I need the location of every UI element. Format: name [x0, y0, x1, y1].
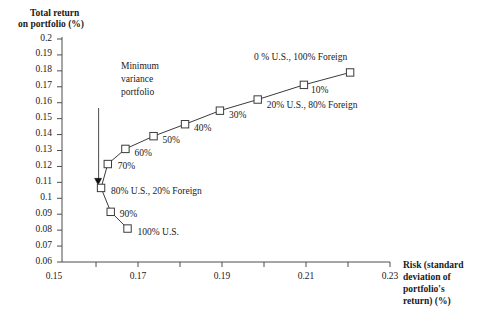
y-tick-label: 0.08: [20, 224, 52, 234]
data-point-label: 0 % U.S., 100% Foreign: [254, 52, 347, 62]
data-point-marker[interactable]: [124, 225, 131, 232]
data-point-label: 80% U.S., 20% Foreign: [111, 186, 202, 196]
data-point-label: 90%: [120, 209, 137, 219]
data-point-marker[interactable]: [150, 132, 157, 139]
y-tick-label: 0.17: [20, 80, 52, 90]
data-point-marker[interactable]: [122, 145, 129, 152]
data-point-marker[interactable]: [254, 96, 261, 103]
y-tick-label: 0.14: [20, 128, 52, 138]
y-tick-label: 0.13: [20, 144, 52, 154]
data-point-marker[interactable]: [216, 107, 223, 114]
data-point-label: 40%: [194, 123, 211, 133]
plot-area: [0, 0, 491, 325]
x-axis-ticks: [96, 262, 390, 267]
data-point-marker[interactable]: [300, 81, 307, 88]
x-tick-label: 0.17: [125, 271, 151, 281]
data-point-label: 60%: [134, 148, 151, 158]
x-tick-label: 0.21: [293, 271, 319, 281]
y-tick-label: 0.16: [20, 96, 52, 106]
y-tick-label: 0.12: [20, 160, 52, 170]
data-point-label: 100% U.S.: [138, 227, 179, 237]
data-point-marker[interactable]: [107, 208, 114, 215]
y-tick-label: 0.07: [20, 240, 52, 250]
y-tick-label: 0.11: [20, 176, 52, 186]
y-tick-label: 0.15: [20, 112, 52, 122]
data-point-label: 50%: [163, 135, 180, 145]
y-tick-label: 0.18: [20, 64, 52, 74]
axes: [62, 37, 390, 262]
data-point-marker[interactable]: [104, 160, 111, 167]
annotation-pointer: [95, 108, 102, 185]
y-tick-label: 0.06: [20, 256, 52, 266]
y-tick-label: 0.2: [20, 33, 52, 43]
y-axis-ticks: [57, 39, 62, 262]
data-point-marker[interactable]: [97, 184, 104, 191]
data-point-label: 30%: [229, 110, 246, 120]
x-tick-label: 0.23: [377, 271, 403, 281]
data-point-marker[interactable]: [181, 121, 188, 128]
data-point-label: 10%: [311, 85, 328, 95]
data-point-label: 70%: [118, 161, 135, 171]
chart-container: Total return on portfolio (%) Risk (stan…: [0, 0, 491, 325]
data-point-label: 20% U.S., 80% Foreign: [267, 100, 358, 110]
data-point-marker[interactable]: [346, 69, 353, 76]
y-tick-label: 0.09: [20, 208, 52, 218]
x-tick-label: 0.15: [41, 271, 67, 281]
x-tick-label: 0.19: [209, 271, 235, 281]
y-tick-label: 0.1: [20, 192, 52, 202]
y-tick-label: 0.19: [20, 48, 52, 58]
